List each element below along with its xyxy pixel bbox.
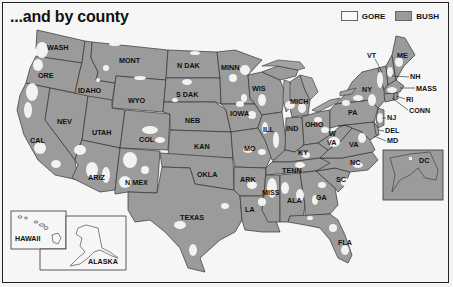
state-ind — [285, 117, 304, 152]
label-alaska: ALASKA — [88, 257, 118, 266]
label-minn: MINN — [221, 63, 239, 72]
label-hawaii: HAWAII — [15, 234, 41, 243]
label-ariz: ARIZ — [88, 173, 105, 182]
label-nev: NEV — [57, 117, 72, 126]
label-nmex: N MEX — [125, 178, 148, 187]
label-nj: NJ — [387, 113, 396, 122]
label-utah: UTAH — [92, 128, 111, 137]
label-cal: CAL — [30, 136, 45, 145]
label-nh: NH — [410, 72, 420, 81]
label-mo: MO — [244, 144, 256, 153]
label-ny: NY — [362, 85, 372, 94]
label-sc: SC — [336, 175, 346, 184]
us-county-map: WASH ORE CAL IDAHO NEV MONT WYO UTAH ARI… — [0, 0, 453, 287]
label-wva-w: W — [329, 129, 336, 138]
label-ri: RI — [406, 95, 413, 104]
label-kan: KAN — [194, 142, 210, 151]
label-me: ME — [397, 51, 408, 60]
label-ndak: N DAK — [177, 61, 201, 70]
state-conn — [384, 93, 394, 102]
label-wis: WIS — [252, 84, 266, 93]
hawaii-inset: HAWAII — [11, 211, 66, 249]
label-wva-va: VA — [327, 138, 336, 147]
label-ala: ALA — [287, 196, 302, 205]
label-neb: NEB — [185, 116, 200, 125]
label-ore: ORE — [38, 71, 54, 80]
label-dc: DC — [419, 156, 429, 165]
label-mich: MICH — [290, 97, 308, 106]
label-ill: ILL — [263, 125, 274, 134]
label-del: DEL — [385, 126, 400, 135]
label-mass: MASS — [416, 84, 437, 93]
label-ohio: OHIO — [305, 120, 324, 129]
label-ky: KY — [298, 148, 308, 157]
label-ga: GA — [316, 193, 327, 202]
label-md: MD — [387, 136, 398, 145]
label-okla: OKLA — [197, 170, 217, 179]
label-vt: VT — [367, 51, 377, 60]
label-texas: TEXAS — [180, 213, 204, 222]
label-idaho: IDAHO — [78, 86, 102, 95]
label-fla: FLA — [338, 238, 352, 247]
dc-inset: DC — [383, 150, 443, 200]
label-la: LA — [245, 205, 255, 214]
label-conn-out: CONN — [409, 106, 430, 115]
state-wyo — [112, 76, 166, 112]
label-col: COL — [139, 135, 155, 144]
label-tenn: TENN — [282, 166, 302, 175]
label-miss: MISS — [262, 188, 280, 197]
label-nc: NC — [350, 158, 360, 167]
label-iowa: IOWA — [230, 109, 249, 118]
label-wyo: WYO — [128, 96, 146, 105]
state-nmex — [115, 148, 160, 194]
label-va: VA — [349, 140, 358, 149]
label-mont: MONT — [119, 56, 141, 65]
label-ind: IND — [286, 124, 298, 133]
label-sdak: S DAK — [176, 90, 199, 99]
label-ark: ARK — [240, 175, 256, 184]
label-pa: PA — [348, 108, 357, 117]
label-wash: WASH — [47, 43, 69, 52]
